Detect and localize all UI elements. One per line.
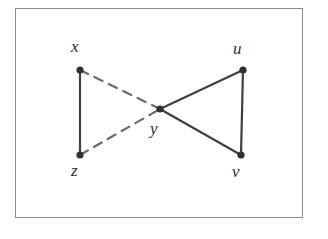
graph-diagram-canvas (0, 0, 328, 239)
node-y (156, 105, 163, 112)
node-u (239, 66, 246, 73)
node-label-y: y (150, 120, 158, 137)
node-label-x: x (71, 38, 79, 55)
edge-u-v-solid (241, 70, 243, 155)
node-v (237, 151, 244, 158)
edge-x-y-dashed (80, 70, 160, 109)
edges-layer (80, 70, 243, 155)
node-label-v: v (232, 163, 240, 180)
edge-y-v-solid (160, 109, 241, 155)
node-z (76, 151, 83, 158)
edge-z-y-dashed (80, 109, 160, 155)
node-label-z: z (71, 162, 78, 179)
node-x (76, 66, 83, 73)
node-label-u: u (233, 40, 242, 57)
figure-root: xuyzv (0, 0, 328, 239)
edge-y-u-solid (160, 70, 243, 109)
